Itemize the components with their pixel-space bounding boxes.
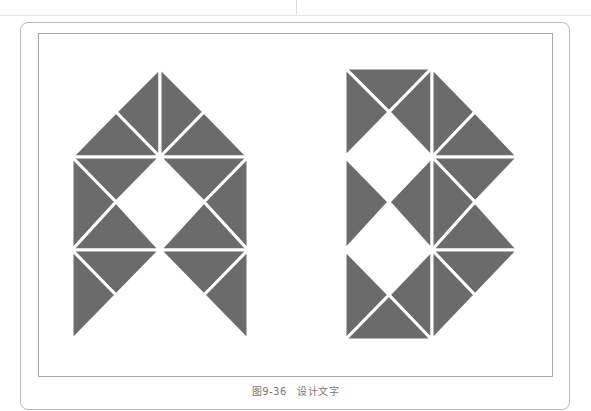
letter-b-glyph [345,68,518,340]
figure-caption: 图9-36 设计文字 [0,383,591,398]
design-letters-figure [0,0,591,411]
letter-a-glyph [72,68,248,340]
